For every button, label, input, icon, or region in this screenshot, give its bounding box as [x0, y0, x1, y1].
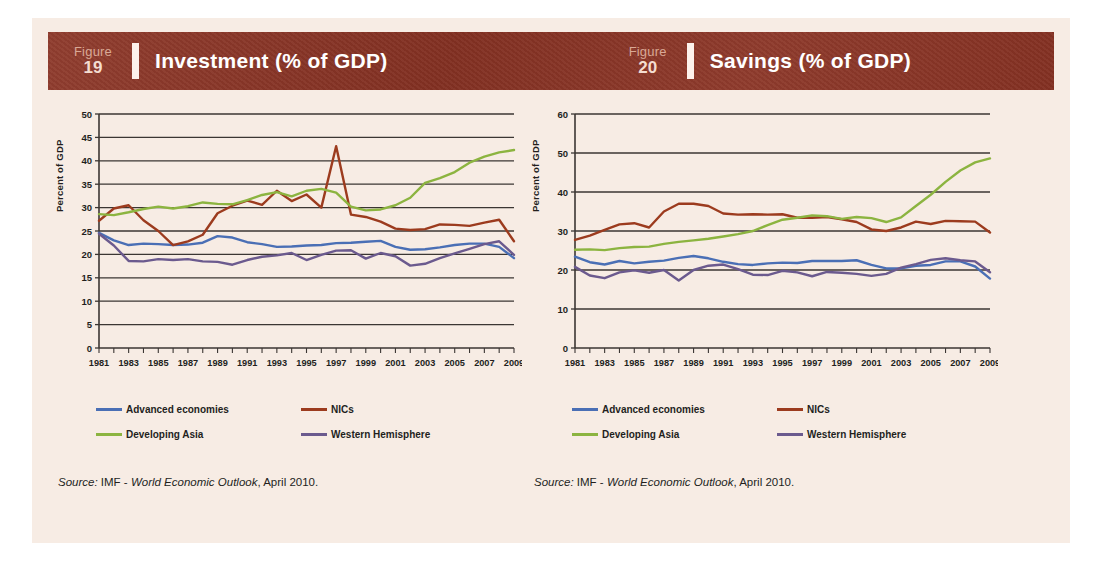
svg-text:2001: 2001: [861, 358, 881, 368]
line-chart-savings: 0102030405060198119831985198719891991199…: [528, 104, 998, 394]
svg-text:1999: 1999: [356, 358, 376, 368]
svg-text:30: 30: [557, 226, 568, 237]
legend-label: NICs: [807, 404, 830, 415]
source-date: , April 2010.: [257, 476, 318, 488]
figure-title-20: Savings (% of GDP): [710, 49, 911, 73]
legend-label: Western Hemisphere: [331, 429, 430, 440]
figure-number: 20: [615, 59, 681, 77]
svg-text:2003: 2003: [415, 358, 435, 368]
svg-text:0: 0: [87, 343, 92, 354]
figure-number-block-19: Figure 19: [60, 45, 126, 77]
figure-number: 19: [60, 59, 126, 77]
svg-text:2007: 2007: [950, 358, 970, 368]
legend-swatch-icon: [96, 433, 122, 436]
legend-swatch-icon: [301, 408, 327, 411]
legend-item-advanced-economies: Advanced economies: [572, 404, 777, 415]
svg-text:2009: 2009: [980, 358, 998, 368]
svg-text:1997: 1997: [326, 358, 346, 368]
source-publication: World Economic Outlook: [131, 476, 258, 488]
figure-number-block-20: Figure 20: [615, 45, 681, 77]
svg-text:2009: 2009: [504, 358, 522, 368]
svg-text:30: 30: [81, 202, 92, 213]
svg-text:1983: 1983: [118, 358, 138, 368]
svg-text:1991: 1991: [713, 358, 733, 368]
svg-text:35: 35: [81, 179, 92, 190]
svg-text:1981: 1981: [565, 358, 585, 368]
svg-text:2003: 2003: [891, 358, 911, 368]
svg-text:40: 40: [81, 155, 92, 166]
svg-text:45: 45: [81, 132, 92, 143]
legend-item-developing-asia: Developing Asia: [572, 429, 777, 440]
svg-text:1995: 1995: [296, 358, 316, 368]
figure-divider-bar: [132, 43, 139, 79]
source-note-savings: Source: IMF - World Economic Outlook, Ap…: [534, 476, 794, 488]
svg-text:50: 50: [557, 148, 568, 159]
source-date: , April 2010.: [733, 476, 794, 488]
svg-text:5: 5: [87, 319, 93, 330]
svg-text:1995: 1995: [772, 358, 792, 368]
svg-text:1981: 1981: [89, 358, 109, 368]
legend-label: Developing Asia: [126, 429, 203, 440]
svg-text:50: 50: [81, 109, 92, 120]
legend-row: Developing Asia Western Hemisphere: [572, 429, 992, 440]
y-axis-title: Percent of GDP: [54, 140, 65, 212]
svg-text:1985: 1985: [148, 358, 168, 368]
line-chart-investment: 0510152025303540455019811983198519871989…: [52, 104, 522, 394]
svg-text:2005: 2005: [920, 358, 940, 368]
svg-text:2007: 2007: [474, 358, 494, 368]
plot-wrapper-investment: Percent of GDP 0510152025303540455019811…: [52, 104, 522, 394]
legend-item-advanced-economies: Advanced economies: [96, 404, 301, 415]
legend-label: NICs: [331, 404, 354, 415]
legend-item-western-hemisphere: Western Hemisphere: [301, 429, 430, 440]
plot-wrapper-savings: Percent of GDP 0102030405060198119831985…: [528, 104, 998, 394]
figure-page: Figure 19 Investment (% of GDP) Figure 2…: [0, 0, 1102, 571]
svg-text:25: 25: [81, 226, 92, 237]
svg-text:20: 20: [81, 249, 92, 260]
svg-text:1989: 1989: [207, 358, 227, 368]
legend-swatch-icon: [572, 433, 598, 436]
svg-text:10: 10: [81, 296, 92, 307]
figure-header-band: Figure 19 Investment (% of GDP) Figure 2…: [48, 32, 1054, 90]
legend-row: Advanced economies NICs: [572, 404, 992, 415]
svg-text:15: 15: [81, 272, 92, 283]
svg-text:2001: 2001: [385, 358, 405, 368]
chart-block-savings: Percent of GDP 0102030405060198119831985…: [528, 104, 998, 524]
source-note-investment: Source: IMF - World Economic Outlook, Ap…: [58, 476, 318, 488]
y-axis-title: Percent of GDP: [530, 140, 541, 212]
source-publication: World Economic Outlook: [607, 476, 734, 488]
legend-item-developing-asia: Developing Asia: [96, 429, 301, 440]
svg-text:0: 0: [563, 343, 568, 354]
svg-text:1987: 1987: [654, 358, 674, 368]
svg-text:1987: 1987: [178, 358, 198, 368]
figure-header-20: Figure 20 Savings (% of GDP): [615, 32, 911, 90]
legend-investment: Advanced economies NICs Developing Asia …: [96, 404, 516, 454]
legend-row: Advanced economies NICs: [96, 404, 516, 415]
svg-text:1991: 1991: [237, 358, 257, 368]
figure-word-label: Figure: [615, 45, 681, 59]
svg-text:60: 60: [557, 109, 568, 120]
legend-label: Western Hemisphere: [807, 429, 906, 440]
figure-word-label: Figure: [60, 45, 126, 59]
svg-text:1999: 1999: [832, 358, 852, 368]
legend-swatch-icon: [572, 408, 598, 411]
svg-text:10: 10: [557, 304, 568, 315]
svg-text:20: 20: [557, 265, 568, 276]
svg-text:1989: 1989: [683, 358, 703, 368]
figure-title-19: Investment (% of GDP): [155, 49, 388, 73]
source-label: Source:: [58, 476, 98, 488]
svg-text:40: 40: [557, 187, 568, 198]
legend-savings: Advanced economies NICs Developing Asia …: [572, 404, 992, 454]
legend-item-nics: NICs: [301, 404, 354, 415]
figure-header-19: Figure 19 Investment (% of GDP): [60, 32, 388, 90]
source-organization: IMF -: [577, 476, 604, 488]
svg-text:1985: 1985: [624, 358, 644, 368]
legend-swatch-icon: [96, 408, 122, 411]
legend-swatch-icon: [777, 408, 803, 411]
svg-text:1997: 1997: [802, 358, 822, 368]
legend-row: Developing Asia Western Hemisphere: [96, 429, 516, 440]
legend-label: Advanced economies: [126, 404, 229, 415]
legend-item-nics: NICs: [777, 404, 830, 415]
legend-item-western-hemisphere: Western Hemisphere: [777, 429, 906, 440]
figure-divider-bar: [687, 43, 694, 79]
chart-block-investment: Percent of GDP 0510152025303540455019811…: [52, 104, 522, 524]
